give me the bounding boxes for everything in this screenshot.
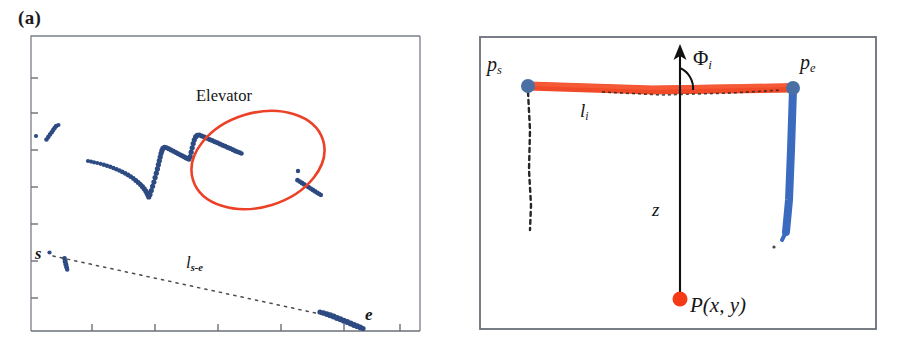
segment-li: [528, 84, 792, 90]
panel-b-frame: [480, 37, 876, 329]
panel-a-y-ticks: [31, 78, 38, 298]
trajectory-elevator-segment: [188, 133, 244, 160]
p-start-label: ps: [487, 54, 502, 77]
p-end-subscript: e: [810, 61, 816, 75]
node-p-start: [521, 79, 535, 93]
trajectory-isolated-point-elevator: [296, 169, 300, 173]
phi-subscript: i: [708, 57, 712, 72]
p-start-symbol: p: [487, 53, 497, 75]
panel-b: (b): [452, 0, 904, 351]
axis-arrow-z: [674, 44, 687, 296]
trajectory-point-s: [47, 250, 51, 254]
trajectory-elevator-exit: [295, 178, 323, 197]
node-p-end: [786, 81, 800, 95]
figure-container: (a): [0, 0, 904, 351]
segment-length-label: li: [580, 101, 589, 123]
distance-s-e-label: ls-e: [186, 254, 203, 273]
start-point-label: s: [35, 246, 41, 263]
heading-angle-label: Φi: [693, 48, 712, 71]
origin-point-P: [673, 292, 688, 307]
elevator-label: Elevator: [196, 88, 252, 105]
trajectory-fragment-near-s: [62, 256, 69, 272]
elevator-highlight-ellipse: [179, 95, 337, 225]
end-point-label: e: [365, 306, 373, 323]
p-end-label: pe: [800, 52, 816, 75]
panel-a-plot: [0, 0, 452, 351]
solid-wall-right: [772, 90, 793, 249]
trajectory-main-walk: [86, 145, 192, 200]
trajectory-isolated-point-left: [34, 134, 38, 138]
panel-a: (a): [0, 0, 452, 351]
phi-symbol: Φ: [693, 46, 708, 70]
li-subscript: i: [585, 110, 588, 123]
position-point-label: P(x, y): [690, 295, 746, 316]
trajectory-fragment-upper-left: [44, 123, 60, 142]
panel-b-plot: [452, 0, 904, 351]
p-start-subscript: s: [497, 63, 502, 77]
distance-subscript: s-e: [191, 262, 203, 273]
p-end-symbol: p: [800, 51, 810, 73]
trajectory-fragment-near-e: [317, 309, 365, 331]
height-z-label: z: [652, 200, 659, 219]
panel-a-axes: [31, 36, 420, 331]
dotted-wall-left: [528, 92, 531, 230]
